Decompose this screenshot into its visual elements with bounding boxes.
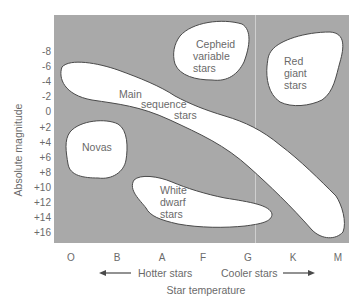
x-tick: B [114,252,121,263]
x-tick: G [244,252,252,263]
label-cepheid-line3: stars [193,62,216,74]
x-axis-label: Star temperature [167,284,246,296]
label-white-dwarf-line2: dwarf [160,196,186,208]
label-white-dwarf-line1: White [160,184,187,196]
y-tick: +16 [34,227,51,238]
y-tick: 0 [45,106,51,117]
y-tick: -2 [42,91,51,102]
label-red-giant-line3: stars [284,79,307,91]
cooler-stars-label: Cooler stars [221,267,278,279]
hr-diagram-svg: Cepheid variable stars Red giant stars M… [0,0,361,304]
label-novas: Novas [82,141,112,153]
y-tick: -4 [42,76,51,87]
y-tick: -8 [42,46,51,57]
y-tick: +14 [34,212,51,223]
y-tick: +2 [40,122,52,133]
y-axis-ticks: -8 -6 -4 -2 0 +2 +4 +6 +8 +10 +12 +14 +1… [34,46,51,238]
y-tick: +6 [40,152,52,163]
label-white-dwarf-line3: stars [160,208,183,220]
hr-diagram-figure: Cepheid variable stars Red giant stars M… [0,0,361,304]
y-tick: +4 [40,137,52,148]
x-tick: M [334,252,342,263]
label-cepheid-line1: Cepheid [196,38,235,50]
y-tick: +10 [34,182,51,193]
y-tick: +12 [34,197,51,208]
label-red-giant-line1: Red [284,55,303,67]
x-tick: A [159,252,166,263]
label-main-sequence-line3: stars [174,109,197,121]
x-tick: K [290,252,297,263]
label-main-sequence-line1: Main [119,88,142,100]
hotter-stars-label: Hotter stars [138,267,192,279]
label-red-giant-line2: giant [284,67,307,79]
y-axis-label: Absolute magnitude [12,103,24,196]
x-axis-ticks: O B A F G K M [67,252,342,263]
right-arrow-icon [283,270,315,276]
x-tick: O [67,252,75,263]
y-tick: -6 [42,61,51,72]
x-tick: F [200,252,206,263]
y-tick: +8 [40,167,52,178]
left-arrow-icon [99,270,131,276]
label-cepheid-line2: variable [193,50,230,62]
